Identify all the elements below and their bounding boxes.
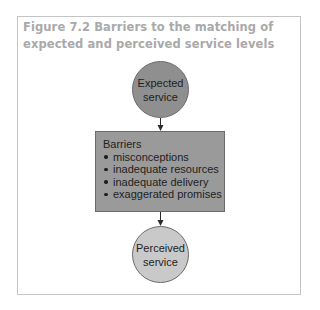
barrier-item-label: misconceptions bbox=[113, 151, 189, 163]
perceived-service-node: Perceived service bbox=[132, 226, 189, 283]
barriers-node: Barriers misconceptions inadequate resou… bbox=[95, 131, 225, 212]
bullet-icon bbox=[104, 155, 108, 159]
perceived-service-label-2: service bbox=[143, 255, 178, 269]
bullet-icon bbox=[104, 193, 108, 197]
barrier-item: inadequate delivery bbox=[103, 176, 224, 189]
barriers-heading: Barriers bbox=[103, 138, 224, 151]
expected-service-label-1: Expected bbox=[138, 76, 184, 90]
bullet-icon bbox=[104, 180, 108, 184]
barrier-item-label: inadequate delivery bbox=[113, 176, 208, 188]
figure-title-line-1: Figure 7.2 Barriers to the matching of bbox=[23, 19, 293, 36]
barriers-list: misconceptions inadequate resources inad… bbox=[103, 151, 224, 201]
barrier-item: misconceptions bbox=[103, 151, 224, 164]
perceived-service-label-1: Perceived bbox=[136, 241, 185, 255]
expected-service-label-2: service bbox=[143, 90, 178, 104]
expected-service-node: Expected service bbox=[132, 61, 189, 118]
barrier-item: exaggerated promises bbox=[103, 188, 224, 201]
bullet-icon bbox=[104, 168, 108, 172]
figure-title: Figure 7.2 Barriers to the matching of e… bbox=[23, 19, 293, 53]
barrier-item-label: inadequate resources bbox=[113, 163, 219, 175]
barrier-item-label: exaggerated promises bbox=[113, 188, 222, 200]
barrier-item: inadequate resources bbox=[103, 163, 224, 176]
figure-title-line-2: expected and perceived service levels bbox=[23, 36, 293, 53]
